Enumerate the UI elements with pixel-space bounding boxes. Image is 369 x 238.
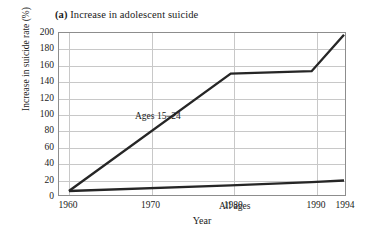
y-axis-tick-labels: 0 20 40 60 80 100 120 140 160 180 200 xyxy=(26,32,54,196)
x-tick-label: 1980 xyxy=(224,200,243,210)
y-tick-label: 140 xyxy=(28,77,54,87)
y-tick-label: 20 xyxy=(28,176,54,186)
x-tick-label: 1970 xyxy=(141,200,160,210)
x-tick-label: 1960 xyxy=(59,200,78,210)
y-tick-label: 120 xyxy=(28,94,54,104)
y-tick-label: 0 xyxy=(28,192,54,202)
panel-letter: (a) xyxy=(55,9,68,20)
y-tick-label: 100 xyxy=(28,110,54,120)
series-label-ages-15-24: Ages 15–24 xyxy=(135,111,181,121)
plot-area: Ages 15–24 All ages xyxy=(58,32,346,196)
y-tick-label: 200 xyxy=(28,28,54,38)
x-tick-label: 1990 xyxy=(307,200,326,210)
y-tick-label: 80 xyxy=(28,126,54,136)
chart-title: (a) Increase in adolescent suicide xyxy=(55,8,198,21)
x-tick-label: 1994 xyxy=(336,200,355,210)
chart-title-text: Increase in adolescent suicide xyxy=(68,9,199,20)
y-tick-label: 180 xyxy=(28,44,54,54)
x-axis-title: Year xyxy=(58,215,346,226)
y-tick-label: 60 xyxy=(28,143,54,153)
x-axis-tick-labels: 1960 1970 1980 1990 1994 xyxy=(58,200,346,212)
inline-series-labels: Ages 15–24 All ages xyxy=(59,33,345,195)
y-tick-label: 40 xyxy=(28,159,54,169)
y-tick-label: 160 xyxy=(28,61,54,71)
